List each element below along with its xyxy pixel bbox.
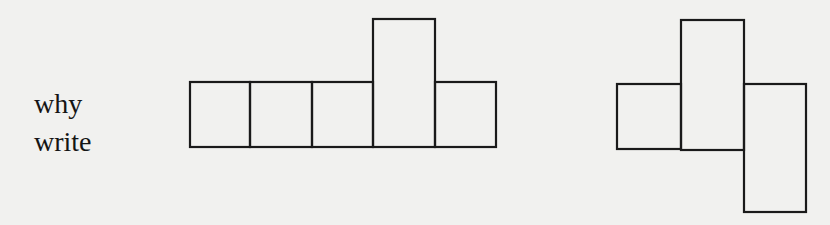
net-figure-left-cell-2 xyxy=(312,82,373,147)
net-figure-left-cell-1 xyxy=(250,82,312,147)
net-figure-left-cell-3 xyxy=(373,19,435,147)
net-figure-right-cell-2 xyxy=(744,84,806,212)
net-figure-left xyxy=(190,19,496,147)
net-figure-right-cell-1 xyxy=(681,20,744,150)
net-figure-right xyxy=(617,20,806,212)
net-figure-left-cell-0 xyxy=(190,82,250,147)
diagram-canvas xyxy=(0,0,830,225)
net-figure-right-cell-0 xyxy=(617,84,681,149)
net-figure-left-cell-4 xyxy=(435,82,496,147)
